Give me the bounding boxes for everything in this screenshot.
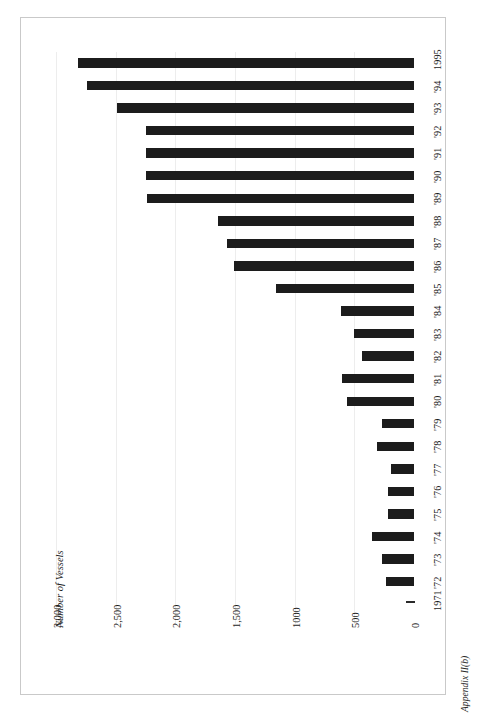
value-tick-label: 500 <box>350 612 361 628</box>
bar-row <box>21 327 447 341</box>
bar-row <box>21 552 447 566</box>
bar-row <box>21 304 447 318</box>
bar <box>388 509 414 518</box>
bar <box>388 487 414 496</box>
figure-caption: Appendix II(b) <box>459 656 470 712</box>
bar-row <box>21 484 447 498</box>
bar <box>342 374 414 383</box>
bar <box>87 81 414 90</box>
bar <box>391 464 414 473</box>
bar <box>362 351 414 360</box>
bar-row <box>21 56 447 70</box>
figure-frame: 050010001,5002,0002,5003,000 1995'94'93'… <box>20 17 446 695</box>
bar-row <box>21 79 447 93</box>
bar <box>382 554 414 563</box>
page-canvas: 050010001,5002,0002,5003,000 1995'94'93'… <box>0 0 479 721</box>
bar <box>117 103 414 112</box>
bar <box>146 148 415 157</box>
bar <box>341 306 414 315</box>
bar <box>78 58 414 67</box>
bar <box>386 577 414 586</box>
value-tick-label: 0 <box>410 623 421 628</box>
bar <box>347 397 414 406</box>
bar-row <box>21 259 447 273</box>
bar <box>146 126 415 135</box>
bar-row <box>21 236 447 250</box>
bar <box>218 216 414 225</box>
bar <box>276 284 414 293</box>
bar <box>227 239 414 248</box>
bar-row <box>21 101 447 115</box>
bar-row <box>21 439 447 453</box>
bar-row <box>21 214 447 228</box>
bar <box>377 442 414 451</box>
bar <box>372 532 414 541</box>
bar-row <box>21 191 447 205</box>
bar-row <box>21 575 447 589</box>
bar <box>382 419 414 428</box>
zero-tick-mark <box>406 601 415 602</box>
bar-row <box>21 394 447 408</box>
bar-row <box>21 462 447 476</box>
bar-chart: 050010001,5002,0002,5003,000 1995'94'93'… <box>21 18 447 696</box>
bar-row <box>21 124 447 138</box>
bar <box>354 329 414 338</box>
bar-row <box>21 169 447 183</box>
bar-row <box>21 507 447 521</box>
bar-row <box>21 146 447 160</box>
bar-row <box>21 417 447 431</box>
bar-row <box>21 530 447 544</box>
bar-row <box>21 597 447 611</box>
bar <box>234 261 414 270</box>
bar-row <box>21 372 447 386</box>
bar <box>147 194 414 203</box>
bar-row <box>21 349 447 363</box>
bar-row <box>21 282 447 296</box>
bar <box>146 171 415 180</box>
